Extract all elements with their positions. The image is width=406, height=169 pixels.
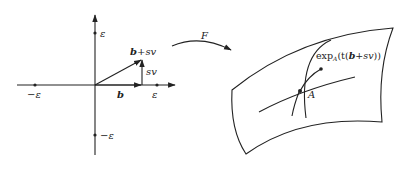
y-tick-negative — [93, 133, 96, 136]
vector-sv-label: sv — [146, 66, 157, 77]
vector-b-label: b — [117, 89, 124, 100]
map-label: F — [200, 30, 209, 41]
geodesic-endpoint — [319, 67, 323, 71]
x-tick-negative — [33, 83, 36, 86]
point-A-label: A — [307, 89, 315, 100]
y-tick-positive-label: ε — [100, 28, 105, 39]
x-tick-positive — [155, 83, 158, 86]
map-arrow-F: F — [172, 30, 231, 50]
geodesic-label: expA(t(b+sv)) — [316, 50, 381, 62]
tangent-plane-panel: −ε ε ε −ε b sv b+sv — [17, 15, 175, 155]
y-tick-negative-label: −ε — [100, 130, 114, 141]
point-A — [298, 89, 302, 93]
surface-panel: A expA(t(b+sv)) — [232, 28, 393, 154]
diagram-figure: −ε ε ε −ε b sv b+sv F A expA(t(b+sv)) — [0, 0, 406, 169]
x-tick-negative-label: −ε — [27, 89, 41, 100]
surface-curve-horizontal — [259, 77, 355, 112]
y-tick-positive — [93, 31, 96, 34]
curved-arrow-icon — [172, 41, 231, 50]
vector-sum-label: b+sv — [130, 46, 157, 57]
x-tick-positive-label: ε — [152, 89, 157, 100]
vector-b-plus-sv — [95, 60, 141, 85]
